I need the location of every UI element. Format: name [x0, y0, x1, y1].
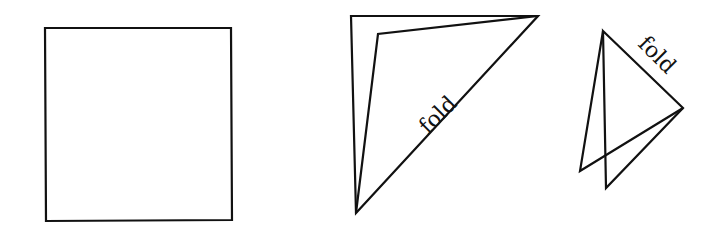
square-figure: [45, 28, 232, 221]
second-fold-figure: fold: [580, 31, 683, 188]
second-fold-label: fold: [633, 31, 681, 79]
first-fold-label: fold: [414, 91, 462, 139]
first-fold-figure: fold: [351, 16, 538, 213]
square-paper: [45, 28, 232, 221]
folding-diagram: fold fold: [0, 0, 719, 236]
